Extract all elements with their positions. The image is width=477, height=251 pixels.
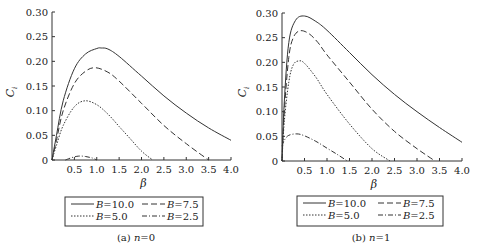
panel-caption: (b) n=1 [352,232,391,243]
series-B-7-5 [52,68,209,160]
y-tick-label: 0.05 [256,131,278,142]
chart-panel-b: 00.050.100.150.200.250.300.51.01.52.02.5… [236,8,470,244]
x-tick-label: 0.5 [297,165,313,176]
y-tick-label: 0.25 [26,31,48,42]
legend-entry: B=10.0 [327,198,366,209]
x-tick-label: 1.0 [89,164,105,175]
legend-entry: B=10.0 [95,199,134,210]
y-tick-label: 0.15 [26,81,48,92]
legend-entry: B=7.5 [166,199,199,210]
y-tick-label: 0.30 [26,7,48,18]
legend-entry: B=2.5 [402,210,435,221]
y-tick-label: 0.20 [256,57,278,68]
y-tick-label: 0.25 [256,32,278,43]
legend-entry: B=2.5 [166,211,199,222]
y-tick-label: 0.30 [256,8,278,19]
legend-entry: B=5.0 [327,210,360,221]
y-tick-label: 0.10 [256,106,278,117]
y-tick-label: 0 [272,156,278,167]
series-B-5-0 [52,101,153,160]
x-tick-label: 1.0 [319,165,335,176]
legend: B=10.0B=7.5B=5.0B=2.5 [297,196,443,226]
chart-panel-a: 00.050.100.150.200.250.300.51.01.52.02.5… [4,7,239,244]
y-tick-label: 0.10 [26,105,48,116]
y-axis-label: Ci [236,87,251,98]
x-axis-label: β [370,178,377,191]
x-tick-label: 3.5 [201,164,217,175]
legend: B=10.0B=7.5B=5.0B=2.5 [65,197,203,226]
legend-entry: B=7.5 [402,198,435,209]
x-tick-label: 3.0 [178,164,194,175]
x-tick-label: 4.0 [454,165,470,176]
series-B-7-5 [282,31,435,161]
x-tick-label: 2.5 [387,165,403,176]
x-tick-label: 3.0 [409,165,425,176]
x-tick-label: 3.5 [432,165,448,176]
x-tick-label: 2.0 [364,165,380,176]
x-tick-label: 2.5 [156,164,172,175]
x-axis-label: β [139,177,146,190]
panel-caption: (a) n=0 [117,232,155,243]
x-tick-label: 4.0 [223,164,239,175]
y-tick-label: 0.15 [256,82,278,93]
y-tick-label: 0 [42,155,48,166]
x-tick-label: 2.0 [134,164,150,175]
y-tick-label: 0.20 [26,56,48,67]
x-tick-label: 0.5 [66,164,82,175]
legend-entry: B=5.0 [95,211,128,222]
series-B-2-5 [65,156,96,160]
series-B-2-5 [282,134,347,161]
y-tick-label: 0.05 [26,130,48,141]
y-axis-label: Ci [4,87,19,98]
figure: 00.050.100.150.200.250.300.51.01.52.02.5… [0,0,477,251]
x-tick-label: 1.5 [111,164,127,175]
series-B-10-0 [282,16,462,161]
x-tick-label: 1.5 [342,165,358,176]
